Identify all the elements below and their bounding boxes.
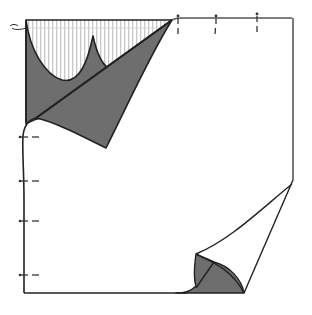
top-tick-marks — [177, 13, 259, 34]
left-tick-marks — [19, 136, 39, 277]
page-curl-icon — [0, 0, 312, 315]
bottom-right-curl — [176, 180, 293, 293]
